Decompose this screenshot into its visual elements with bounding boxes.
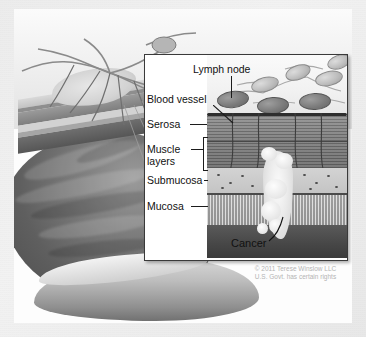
copyright-line-1: © 2011 Terese Winslow LLC — [228, 265, 352, 273]
illustration-canvas: Cancer Lymph node Blood vessel Serosa — [14, 9, 352, 323]
leader-blood-vessel — [213, 105, 235, 125]
copyright-credit: © 2011 Terese Winslow LLC U.S. Govt. has… — [228, 265, 352, 281]
leader-serosa — [190, 124, 207, 125]
label-muscle-layers-line2: layers — [147, 155, 175, 167]
label-muscle-layers-line1: Muscle — [147, 143, 180, 155]
illustration-root: Cancer Lymph node Blood vessel Serosa — [0, 0, 366, 337]
label-lymph-node: Lymph node — [193, 63, 250, 75]
label-mucosa: Mucosa — [147, 200, 184, 212]
copyright-line-2: U.S. Govt. has certain rights — [228, 273, 352, 281]
label-serosa: Serosa — [147, 118, 180, 130]
inset-label-column: Lymph node Blood vessel Serosa Muscle la… — [145, 55, 285, 258]
label-blood-vessel: Blood vessel — [147, 93, 207, 105]
cross-section-detail-panel: Cancer Lymph node Blood vessel Serosa — [144, 54, 348, 261]
leader-lymph-node — [231, 76, 232, 98]
leader-submucosa — [204, 180, 208, 181]
bracket-muscle-layers — [203, 137, 208, 171]
leader-mucosa — [191, 206, 208, 207]
label-submucosa: Submucosa — [147, 174, 202, 186]
leader-muscle-layers — [191, 149, 203, 150]
